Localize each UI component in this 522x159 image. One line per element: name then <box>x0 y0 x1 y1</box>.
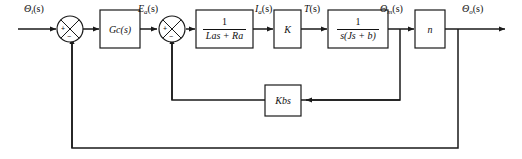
sum2-plus-sign: + <box>163 25 167 32</box>
sum2-minus-sign: − <box>169 33 173 40</box>
sum1-minus-sign: − <box>67 33 71 40</box>
back-emf-block-label: Kbs <box>265 85 301 116</box>
torque-label: T(s) <box>304 3 320 14</box>
inner-feedback-return-line <box>172 43 265 100</box>
gear-ratio-block-label: n <box>415 10 445 48</box>
mechanical-block-label: 1 s(Js + b) <box>328 10 388 48</box>
controller-block-label: Gc(s) <box>100 10 140 48</box>
armature-block-label: 1 Las + Ra <box>196 10 253 48</box>
error-voltage-label: Ea(s) <box>138 3 158 16</box>
output-angle-label: Θo(s) <box>462 3 483 16</box>
armature-current-label: Ia(s) <box>255 3 272 16</box>
torque-constant-block-label: K <box>274 10 301 48</box>
sum1-plus-sign: + <box>61 25 65 32</box>
block-diagram-canvas: Θi(s) Ea(s) Ia(s) T(s) Θm(s) Θo(s) Gc(s)… <box>0 0 522 159</box>
input-signal-label: Θi(s) <box>24 3 44 16</box>
